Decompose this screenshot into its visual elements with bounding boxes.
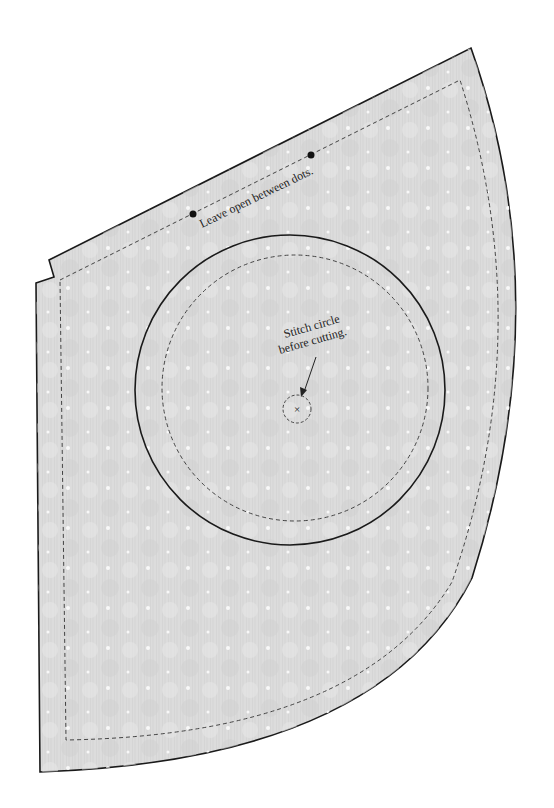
- leave-open-dot-end: [308, 152, 315, 159]
- center-mark-icon: ×: [294, 403, 300, 415]
- pattern-piece-diagram: Leave open between dots. Stitch circle b…: [0, 0, 554, 808]
- leave-open-dot-start: [190, 211, 197, 218]
